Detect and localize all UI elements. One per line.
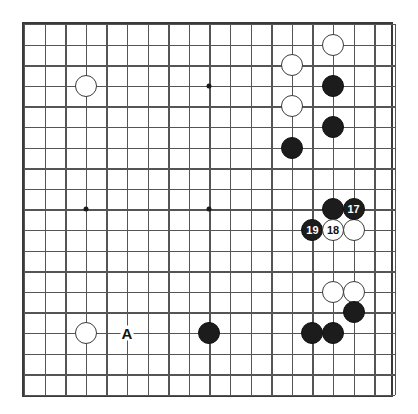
grid-line-vertical bbox=[230, 24, 231, 395]
grid-line-vertical bbox=[292, 24, 293, 395]
star-point bbox=[207, 207, 212, 212]
stone-black[interactable] bbox=[322, 75, 344, 97]
grid-line-vertical bbox=[271, 24, 272, 395]
board-point-label: A bbox=[121, 326, 134, 341]
grid-line-horizontal bbox=[24, 312, 395, 313]
grid-line-vertical bbox=[374, 24, 375, 395]
grid-line-vertical bbox=[395, 24, 396, 395]
grid-line-horizontal bbox=[24, 354, 395, 355]
stone-white[interactable] bbox=[322, 34, 344, 56]
stone-black[interactable] bbox=[301, 322, 323, 344]
stone-black-numbered[interactable]: 19 bbox=[301, 219, 323, 241]
stone-black[interactable] bbox=[322, 198, 344, 220]
stone-white-numbered[interactable]: 18 bbox=[322, 219, 344, 241]
stone-black[interactable] bbox=[322, 116, 344, 138]
stone-white[interactable] bbox=[343, 219, 365, 241]
stone-white[interactable] bbox=[75, 75, 97, 97]
stone-black[interactable] bbox=[281, 137, 303, 159]
go-board-diagram: 171918 A bbox=[0, 0, 418, 414]
stone-white[interactable] bbox=[281, 95, 303, 117]
grid-line-vertical bbox=[251, 24, 252, 395]
stone-black-numbered[interactable]: 17 bbox=[343, 198, 365, 220]
stone-move-number: 19 bbox=[306, 225, 318, 236]
stone-white[interactable] bbox=[281, 54, 303, 76]
stone-white[interactable] bbox=[343, 281, 365, 303]
stone-black[interactable] bbox=[322, 322, 344, 344]
stone-black[interactable] bbox=[343, 301, 365, 323]
star-point bbox=[207, 83, 212, 88]
stone-white[interactable] bbox=[322, 281, 344, 303]
stone-move-number: 18 bbox=[327, 225, 339, 236]
board-frame: 171918 A bbox=[22, 22, 393, 397]
stone-white[interactable] bbox=[75, 322, 97, 344]
grid-line-horizontal bbox=[24, 251, 395, 252]
grid-line-horizontal bbox=[24, 374, 395, 375]
grid-line-horizontal bbox=[24, 395, 395, 396]
stone-black[interactable] bbox=[198, 322, 220, 344]
star-point bbox=[83, 207, 88, 212]
stone-move-number: 17 bbox=[347, 204, 359, 215]
grid-line-horizontal bbox=[24, 271, 395, 272]
